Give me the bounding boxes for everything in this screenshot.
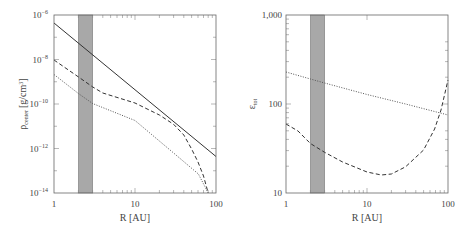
svg-text:100: 100: [269, 99, 283, 109]
left-shaded-band: [78, 15, 92, 193]
right-y-tick-labels: 1,000 100 10: [262, 10, 283, 198]
svg-text:10−14: 10−14: [30, 187, 48, 198]
svg-text:10: 10: [363, 199, 373, 209]
right-x-ticks: [310, 15, 444, 193]
svg-text:1,000: 1,000: [262, 10, 283, 20]
left-x-tick-labels: 1 10 100: [52, 199, 224, 209]
svg-text:10−6: 10−6: [33, 9, 48, 20]
svg-text:10−8: 10−8: [33, 54, 48, 65]
svg-text:10: 10: [131, 199, 141, 209]
svg-text:10−10: 10−10: [30, 98, 48, 109]
svg-text:1: 1: [52, 199, 57, 209]
left-dashed-curve: [54, 60, 208, 193]
left-x-axis-label: R [AU]: [120, 212, 150, 223]
right-y-axis-label: εtot: [246, 98, 258, 109]
svg-text:10: 10: [273, 188, 283, 198]
svg-text:100: 100: [209, 199, 223, 209]
right-panel: 1,000 100 10 1 10 100 R [AU] εtot: [246, 10, 455, 223]
svg-text:100: 100: [441, 199, 455, 209]
left-x-ticks: [78, 15, 212, 193]
svg-text:1: 1: [284, 199, 289, 209]
left-y-axis-label: ρcenter[g/cm3]: [17, 78, 29, 129]
figure: 10−6 10−8 10−10 10−12 10−14 1 10 100 R […: [0, 0, 472, 233]
right-x-tick-labels: 1 10 100: [284, 199, 456, 209]
right-shaded-band: [310, 15, 324, 193]
left-dotted-curve: [54, 75, 208, 194]
left-panel: 10−6 10−8 10−10 10−12 10−14 1 10 100 R […: [17, 9, 223, 223]
svg-text:10−12: 10−12: [30, 143, 48, 154]
left-y-tick-labels: 10−6 10−8 10−10 10−12 10−14: [30, 9, 48, 198]
right-x-axis-label: R [AU]: [352, 212, 382, 223]
